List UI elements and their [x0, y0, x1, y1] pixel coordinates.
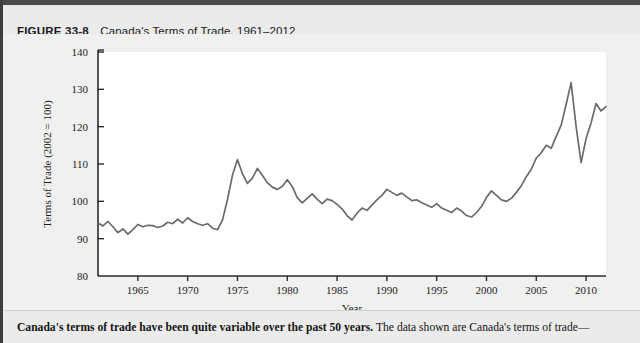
caption-text: Canada's terms of trade have been quite …	[17, 321, 629, 335]
x-tick-label-2010: 2010	[575, 284, 598, 296]
caption-rest: The data shown are Canada's terms of tra…	[373, 321, 589, 334]
y-axis-title: Terms of Trade (2002 = 100)	[41, 100, 54, 228]
data-series-0	[98, 83, 606, 235]
x-tick-label-2005: 2005	[525, 284, 548, 296]
y-tick-label-110: 110	[72, 158, 89, 170]
y-tick-label-120: 120	[72, 121, 89, 133]
x-tick-label-2000: 2000	[475, 284, 498, 296]
x-tick-label-1990: 1990	[376, 284, 399, 296]
x-tick-label-1980: 1980	[276, 284, 299, 296]
caption-top-rule	[3, 310, 640, 311]
x-tick-label-1995: 1995	[426, 284, 449, 296]
y-tick-label-100: 100	[72, 195, 89, 207]
figure-caption: Canada's terms of trade have been quite …	[3, 310, 640, 343]
y-tick-label-80: 80	[77, 270, 89, 282]
x-tick-label-1975: 1975	[226, 284, 249, 296]
x-tick-label-1985: 1985	[326, 284, 349, 296]
y-tick-label-90: 90	[77, 233, 89, 245]
y-tick-label-140: 140	[72, 46, 89, 58]
x-tick-label-1970: 1970	[177, 284, 200, 296]
caption-lead: Canada's terms of trade have been quite …	[17, 321, 373, 334]
y-tick-label-130: 130	[72, 83, 89, 95]
chart-svg: 8090100110120130140196519701975198019851…	[3, 0, 640, 343]
x-tick-label-1965: 1965	[127, 284, 150, 296]
